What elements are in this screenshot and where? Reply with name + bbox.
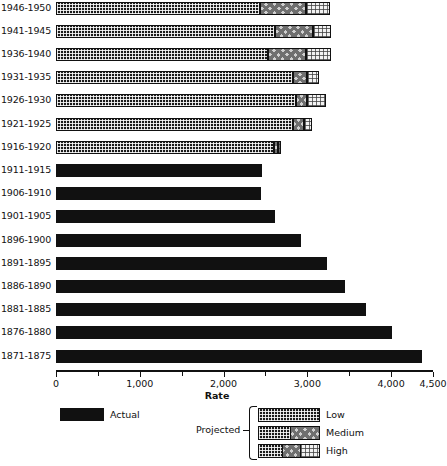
bar-segment-actual	[56, 326, 392, 339]
legend-swatch-high	[258, 444, 320, 458]
bar-segment-low	[56, 141, 274, 154]
bar-segment-low	[56, 2, 260, 15]
legend-label-low: Low	[326, 409, 345, 421]
bar-segment-actual	[56, 257, 327, 270]
bar-segment-low	[56, 94, 296, 107]
bar-segment-medium	[268, 48, 305, 61]
bar-segment-high	[307, 71, 319, 84]
bar-segment-low	[56, 118, 293, 131]
x-tick	[224, 372, 225, 377]
y-axis-category-labels: 1946-19501941-19451936-19401931-19351926…	[0, 0, 54, 370]
x-tick-label: 4,500	[419, 378, 446, 389]
bar-segment-actual	[56, 187, 261, 200]
bar-segment-low	[56, 71, 293, 84]
legend-brace	[249, 406, 257, 460]
legend-label-projected: Projected	[196, 424, 240, 436]
bar-segment-high	[306, 2, 330, 15]
legend-label-high: High	[326, 445, 348, 457]
bar-segment-medium	[296, 94, 307, 107]
bar-segment-medium	[260, 2, 305, 15]
y-axis-label: 1926-1930	[1, 95, 51, 105]
y-axis-label: 1911-1915	[1, 165, 51, 175]
legend-brace-tip	[243, 430, 250, 431]
legend-label-medium: Medium	[326, 427, 364, 439]
y-axis-label: 1936-1940	[1, 49, 51, 59]
x-tick	[433, 372, 434, 377]
y-axis-label: 1941-1945	[1, 26, 51, 36]
bar-segment-high	[304, 118, 312, 131]
y-axis-label: 1931-1935	[1, 72, 51, 82]
bar-segment-medium	[293, 118, 304, 131]
y-axis-label: 1906-1910	[1, 188, 51, 198]
bar-segment-actual	[56, 164, 262, 177]
x-tick	[307, 372, 308, 377]
y-axis-label: 1921-1925	[1, 119, 51, 129]
bar-segment-actual	[56, 350, 422, 363]
bar-segment-low	[56, 25, 275, 38]
x-axis-line	[56, 370, 433, 372]
bar-segment-high	[307, 94, 326, 107]
bar-segment-medium	[293, 71, 307, 84]
legend-swatch-actual	[60, 408, 104, 421]
legend-swatch-medium	[258, 426, 320, 440]
bar-segment-actual	[56, 280, 345, 293]
legend-swatch-low	[258, 408, 320, 422]
y-axis-label: 1916-1920	[1, 142, 51, 152]
bar-segment-actual	[56, 303, 366, 316]
bar-segment-medium	[275, 25, 312, 38]
y-axis-label: 1881-1885	[1, 304, 51, 314]
y-axis-label: 1901-1905	[1, 211, 51, 221]
x-tick-label: 0	[53, 378, 59, 389]
bar-segment-high	[313, 25, 331, 38]
y-axis-label: 1876-1880	[1, 327, 51, 337]
y-axis-label: 1886-1890	[1, 281, 51, 291]
x-tick-minor	[98, 372, 99, 376]
y-axis-label: 1871-1875	[1, 351, 51, 361]
bar-segment-high	[306, 48, 331, 61]
bars-container	[56, 0, 434, 370]
x-tick-label: 4,000	[378, 378, 405, 389]
y-axis-label: 1896-1900	[1, 235, 51, 245]
x-tick-minor	[265, 372, 266, 376]
x-tick-label: 2,000	[210, 378, 237, 389]
bar-segment-low	[56, 48, 268, 61]
plot-area: 1946-19501941-19451936-19401931-19351926…	[0, 0, 434, 372]
bar-segment-actual	[56, 210, 275, 223]
x-tick-minor	[349, 372, 350, 376]
x-tick-minor	[182, 372, 183, 376]
y-axis-label: 1891-1895	[1, 258, 51, 268]
x-axis-title: Rate	[0, 390, 434, 401]
bar-segment-actual	[56, 234, 301, 247]
legend-label-actual: Actual	[110, 409, 140, 421]
legend: Actual Projected Low Medium High	[0, 402, 434, 462]
bar-segment-high	[278, 141, 281, 154]
x-tick-label: 3,000	[294, 378, 321, 389]
x-tick	[140, 372, 141, 377]
x-tick	[391, 372, 392, 377]
x-tick	[56, 372, 57, 377]
y-axis-label: 1946-1950	[1, 3, 51, 13]
x-tick-label: 1,000	[126, 378, 153, 389]
